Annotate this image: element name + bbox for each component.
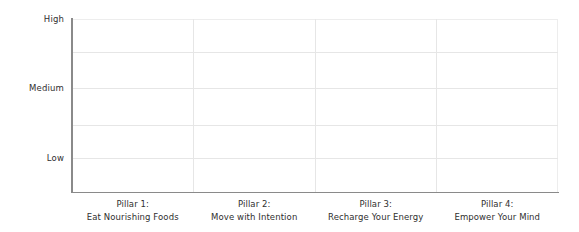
x-axis-tick-labels: Pillar 1: Eat Nourishing Foods Pillar 2:…: [72, 198, 558, 230]
y-tick-label-low: Low: [2, 154, 64, 163]
x-tick-label-pillar-1: Pillar 1: Eat Nourishing Foods: [72, 198, 194, 230]
x-axis-line: [71, 192, 559, 194]
plot-area: [72, 19, 558, 192]
x-tick-label-line2: Eat Nourishing Foods: [72, 211, 194, 224]
y-axis-line: [71, 18, 73, 193]
x-tick-label-line1: Pillar 4:: [437, 198, 559, 211]
y-tick-label-medium: Medium: [2, 84, 64, 93]
x-tick-label-line1: Pillar 2:: [194, 198, 316, 211]
gridline-vertical: [193, 19, 194, 192]
plot-right-edge: [557, 19, 558, 192]
y-tick-label-high: High: [2, 15, 64, 24]
y-axis-tick-labels: High Medium Low: [0, 0, 64, 232]
x-tick-label-line2: Recharge Your Energy: [315, 211, 437, 224]
x-tick-label-line2: Move with Intention: [194, 211, 316, 224]
x-tick-label-line1: Pillar 1:: [72, 198, 194, 211]
gridline-vertical: [436, 19, 437, 192]
x-tick-label-pillar-4: Pillar 4: Empower Your Mind: [437, 198, 559, 230]
x-tick-label-pillar-3: Pillar 3: Recharge Your Energy: [315, 198, 437, 230]
x-tick-label-line2: Empower Your Mind: [437, 211, 559, 224]
gridline-vertical: [315, 19, 316, 192]
x-tick-label-line1: Pillar 3:: [315, 198, 437, 211]
x-tick-label-pillar-2: Pillar 2: Move with Intention: [194, 198, 316, 230]
chart-container: High Medium Low Pillar 1: Eat Nourishing…: [0, 0, 579, 232]
